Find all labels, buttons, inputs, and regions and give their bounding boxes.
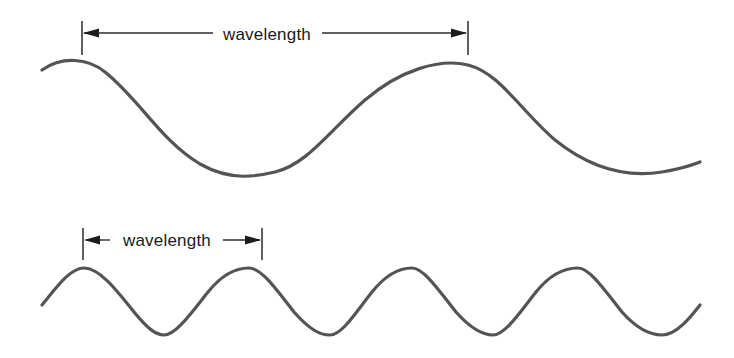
wave-figure-svg: wavelength wavelength [0,0,734,358]
figure-background [0,0,734,358]
top-wavelength-label: wavelength [222,25,311,44]
bottom-wavelength-label: wavelength [122,231,211,250]
wavelength-diagram: wavelength wavelength [0,0,734,358]
